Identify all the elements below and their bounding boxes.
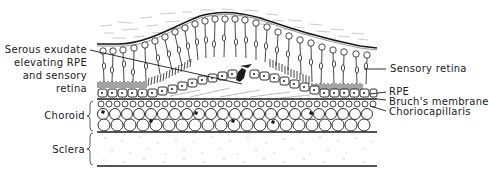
sclera-stipple <box>103 136 372 162</box>
label-serous-line-4: retina <box>0 82 87 95</box>
label-choroid: Choroid <box>44 110 85 121</box>
label-sclera: Sclera <box>52 144 85 155</box>
sclera-brace <box>87 133 93 165</box>
leader-bruchs-membrane <box>377 99 386 100</box>
vitreous-fiber-strokes <box>100 9 368 40</box>
choroid-brace <box>87 101 93 131</box>
label-serous-line-1: Serous exudate <box>0 43 87 56</box>
leader-choriocapillaris <box>370 106 386 111</box>
label-serous-line-2: elevating RPE <box>0 56 87 69</box>
label-serous-exudate: Serous exudate elevating RPE and sensory… <box>0 43 87 95</box>
serous-exudate-space <box>170 88 310 98</box>
braces <box>87 101 93 165</box>
choriocapillaris-layer <box>98 101 376 107</box>
label-choriocapillaris: Choriocapillaris <box>389 106 471 117</box>
label-sensory-retina: Sensory retina <box>390 63 467 74</box>
choroid-vessels <box>98 109 373 132</box>
label-serous-line-3: and sensory <box>0 69 87 82</box>
